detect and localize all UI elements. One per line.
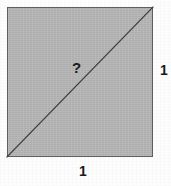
square-shape: [7, 7, 153, 157]
bottom-side-length-label: 1: [79, 164, 87, 178]
right-side-length-label: 1: [160, 63, 168, 77]
diagonal-length-label: ?: [72, 60, 81, 75]
geometry-figure: ? 1 1: [0, 0, 171, 186]
square-fill-texture: [8, 8, 152, 156]
